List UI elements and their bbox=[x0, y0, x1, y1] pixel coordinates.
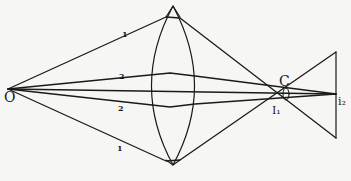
convex-lens bbox=[152, 6, 195, 165]
object-point-label: O bbox=[4, 89, 15, 105]
ray-1-upper-label: 1 bbox=[122, 29, 128, 39]
c-label: C bbox=[279, 73, 290, 89]
ray-2-upper-label: 2 bbox=[119, 71, 125, 81]
optical-axis bbox=[8, 89, 336, 94]
spherical-aberration-diagram: O 1 1 2 2 C I₁ i₂ bbox=[0, 0, 351, 181]
i2-label: i₂ bbox=[338, 95, 346, 108]
i1-label: I₁ bbox=[272, 104, 281, 117]
ray-1-lower-label: 1 bbox=[117, 143, 123, 153]
ray-2-lower-label: 2 bbox=[118, 103, 124, 113]
